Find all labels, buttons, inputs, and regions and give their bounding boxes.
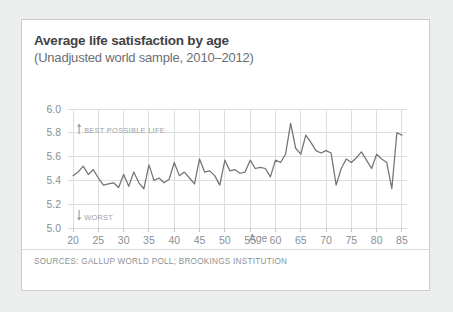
y-tick-label: 6.0	[46, 103, 61, 115]
best-possible-life-annotation: BEST POSSIBLE LIFE	[84, 126, 165, 135]
x-axis-ticks	[73, 228, 402, 232]
y-tick-label: 5.8	[46, 126, 61, 138]
worst-annotation: WORST	[84, 213, 113, 222]
x-tick-label: 70	[320, 234, 332, 245]
x-axis-tick-labels: 2025303540455055606570758085	[67, 234, 408, 245]
x-tick-label: 40	[168, 234, 180, 245]
chart-plot-area: 5.05.25.45.65.86.0 202530354045505560657…	[22, 70, 431, 245]
x-tick-label: 45	[194, 234, 206, 245]
y-tick-label: 5.0	[46, 222, 61, 234]
y-tick-label: 5.4	[46, 174, 61, 186]
x-tick-label: 85	[396, 234, 408, 245]
x-tick-label: 35	[143, 234, 155, 245]
x-tick-label: 50	[219, 234, 231, 245]
x-tick-label: 75	[345, 234, 357, 245]
x-tick-label: 30	[118, 234, 130, 245]
x-tick-label: 80	[371, 234, 383, 245]
x-axis-title: Age	[249, 232, 268, 244]
x-tick-label: 60	[270, 234, 282, 245]
y-tick-label: 5.6	[46, 150, 61, 162]
y-tick-label: 5.2	[46, 198, 61, 210]
x-tick-label: 20	[67, 234, 79, 245]
chart-card: Average life satisfaction by age (Unadju…	[21, 19, 430, 291]
sources-note: SOURCES: GALLUP WORLD POLL; BROOKINGS IN…	[34, 257, 287, 266]
chart-subtitle: (Unadjusted world sample, 2010–2012)	[34, 50, 254, 65]
page-title: Average life satisfaction by age	[34, 33, 229, 48]
life-satisfaction-line-chart: 5.05.25.45.65.86.0 202530354045505560657…	[22, 70, 431, 245]
y-axis-tick-labels: 5.05.25.45.65.86.0	[46, 103, 61, 234]
x-tick-label: 65	[295, 234, 307, 245]
x-tick-label: 25	[93, 234, 105, 245]
footer-divider	[22, 249, 429, 250]
